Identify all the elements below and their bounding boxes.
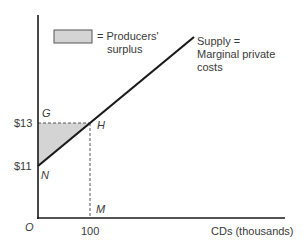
supply-curve <box>38 37 194 166</box>
point-m-label: M <box>96 203 105 216</box>
y-tick-13: $13 <box>14 117 32 130</box>
supply-label-line3: costs <box>197 61 223 74</box>
origin-label: O <box>25 221 34 234</box>
point-g-label: G <box>42 107 51 120</box>
supply-label-line2: Marginal private <box>197 48 275 61</box>
supply-label-line1: Supply = <box>197 35 240 48</box>
legend-swatch <box>54 30 92 43</box>
point-n-label: N <box>41 169 49 182</box>
legend-label-line1: = Producers' <box>97 30 159 43</box>
x-tick-100: 100 <box>81 225 99 238</box>
y-tick-11: $11 <box>14 160 32 173</box>
legend-label-line2: surplus <box>107 43 142 56</box>
point-h-label: H <box>97 119 105 132</box>
x-axis-label: CDs (thousands) <box>211 225 294 238</box>
